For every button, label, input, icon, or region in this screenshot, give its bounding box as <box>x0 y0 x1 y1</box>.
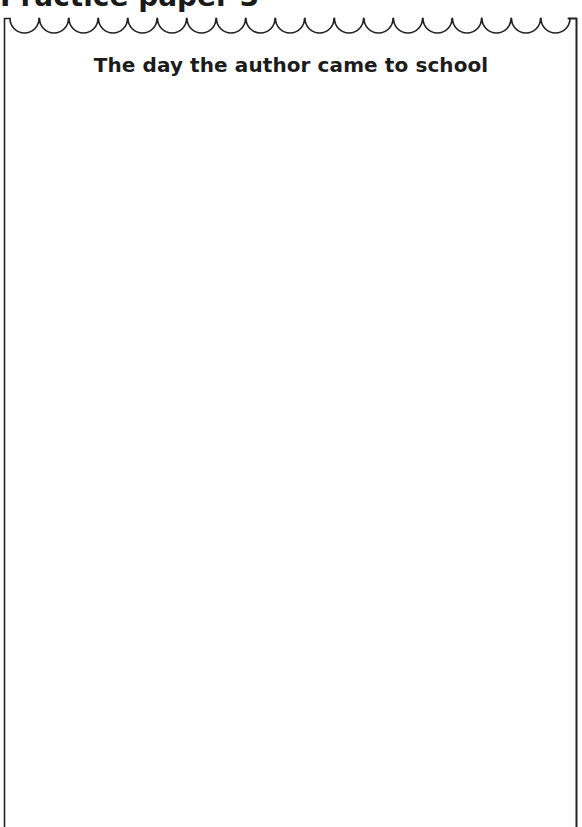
sheet-title: The day the author came to school <box>0 52 582 78</box>
writing-area[interactable] <box>6 90 574 827</box>
